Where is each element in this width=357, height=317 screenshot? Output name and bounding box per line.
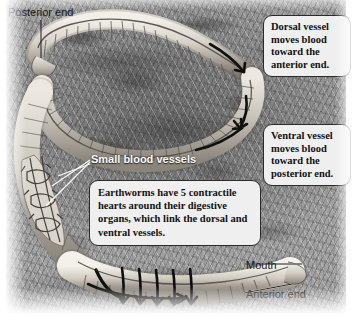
earthworm-circulatory-diagram: Posterior end Mouth Anterior end Small b… [0, 0, 357, 317]
edge-fade-vignette [0, 0, 357, 317]
